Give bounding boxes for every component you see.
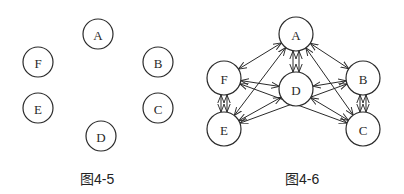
node-a: A <box>279 17 313 51</box>
node-a: A <box>83 19 113 49</box>
node-label: D <box>96 130 105 145</box>
edge-a-b <box>310 43 349 68</box>
edge-a-e <box>234 48 285 116</box>
node-d: D <box>279 72 313 106</box>
figure-caption-4-6: 图4-6 <box>285 168 319 188</box>
figure-4-5-graph: ABCDEF <box>23 19 173 151</box>
figure-caption-4-5: 图4-5 <box>80 168 114 188</box>
node-b: B <box>346 61 380 95</box>
diagram-canvas: ABCDEF ABCDEF <box>0 0 404 194</box>
node-label: A <box>93 28 103 43</box>
node-label: B <box>359 72 368 87</box>
edge-a-f <box>239 43 282 69</box>
node-label: C <box>359 123 368 138</box>
node-label: C <box>154 102 163 117</box>
node-label: F <box>34 56 41 71</box>
node-label: F <box>220 72 227 87</box>
node-e: E <box>23 93 53 123</box>
node-f: F <box>207 61 241 95</box>
node-f: F <box>23 47 53 77</box>
node-label: B <box>154 56 163 71</box>
node-d: D <box>86 121 116 151</box>
node-e: E <box>207 112 241 146</box>
node-b: B <box>143 47 173 77</box>
node-label: E <box>34 102 42 117</box>
node-label: A <box>291 28 301 43</box>
node-c: C <box>143 93 173 123</box>
figure-4-6-graph: ABCDEF <box>207 17 380 146</box>
node-label: E <box>220 123 228 138</box>
node-c: C <box>346 112 380 146</box>
node-label: D <box>291 83 300 98</box>
